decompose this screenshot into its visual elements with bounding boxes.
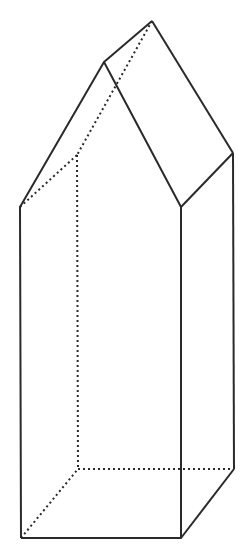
eave-right-edge	[181, 153, 233, 207]
hidden-edges	[20, 21, 234, 538]
back-right-vertical-edge	[233, 153, 234, 469]
prism-diagram	[0, 0, 252, 555]
bottom-right-edge	[181, 469, 234, 538]
back-roof-right-edge	[152, 21, 233, 153]
front-face-outline	[20, 62, 181, 538]
hidden-bottom-left	[21, 469, 78, 538]
visible-edges	[20, 21, 234, 538]
ridge-edge	[104, 21, 152, 62]
hidden-back-left-vertical	[77, 155, 78, 469]
hidden-eave-left	[20, 155, 77, 207]
